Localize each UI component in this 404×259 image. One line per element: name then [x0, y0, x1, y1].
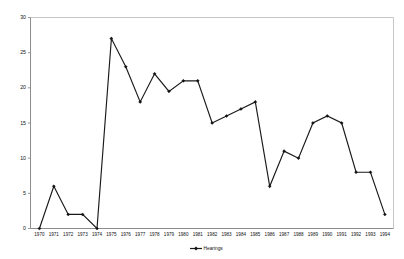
chart-container: 051015202530 197019711972197319741975197… [0, 0, 404, 259]
x-tick-label: 1976 [121, 232, 132, 237]
data-point-marker [196, 79, 199, 82]
x-tick-label: 1983 [221, 232, 232, 237]
data-point-marker [38, 227, 41, 230]
y-tick-label: 5 [23, 190, 26, 196]
x-tick-label: 1984 [236, 232, 247, 237]
y-tick-label: 20 [20, 84, 26, 90]
x-tick-label: 1992 [351, 232, 362, 237]
x-tick-label: 1973 [77, 232, 88, 237]
line-chart: 051015202530 197019711972197319741975197… [0, 0, 404, 259]
x-tick-label: 1978 [149, 232, 160, 237]
series-line-1 [39, 39, 384, 229]
x-tick-label: 1981 [193, 232, 204, 237]
x-tick-label: 1994 [380, 232, 391, 237]
x-tick-label: 1988 [293, 232, 304, 237]
x-tick-label: 1980 [178, 232, 189, 237]
data-point-marker [268, 185, 271, 188]
x-tick-label: 1971 [49, 232, 60, 237]
x-tick-label: 1970 [34, 232, 45, 237]
x-tick-label: 1986 [265, 232, 276, 237]
legend-label-hearings: Hearings [204, 246, 224, 251]
x-tick-label: 1985 [250, 232, 261, 237]
y-tick-label: 15 [20, 120, 26, 126]
x-tick-label: 1977 [135, 232, 146, 237]
y-tick-label: 25 [20, 49, 26, 55]
data-point-marker [355, 171, 358, 174]
chart-legend: Hearings [190, 246, 223, 251]
y-axis-ticks: 051015202530 [20, 14, 30, 231]
y-tick-label: 0 [23, 225, 26, 231]
x-tick-label: 1982 [207, 232, 218, 237]
x-axis-ticks: 1970197119721973197419751976197719781979… [34, 232, 390, 237]
x-tick-label: 1975 [106, 232, 117, 237]
x-tick-label: 1993 [365, 232, 376, 237]
x-tick-label: 1972 [63, 232, 74, 237]
x-tick-label: 1990 [322, 232, 333, 237]
data-point-marker [383, 213, 386, 216]
x-tick-label: 1991 [337, 232, 348, 237]
x-tick-label: 1974 [92, 232, 103, 237]
x-tick-label: 1987 [279, 232, 290, 237]
legend-marker-swatch [194, 247, 198, 251]
y-tick-label: 10 [20, 155, 26, 161]
x-tick-label: 1989 [308, 232, 319, 237]
data-series-group [38, 37, 387, 230]
x-tick-label: 1979 [164, 232, 175, 237]
y-tick-label: 30 [20, 14, 26, 20]
data-point-marker [369, 171, 372, 174]
